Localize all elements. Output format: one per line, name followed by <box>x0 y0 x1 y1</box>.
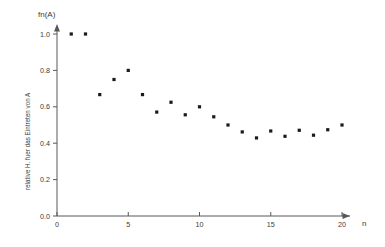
data-point <box>226 123 229 126</box>
x-tick-label: 0 <box>55 220 59 229</box>
scatter-plot: 0.00.20.40.60.81.0 05101520 fn(A) n rela… <box>0 0 385 247</box>
data-point <box>283 135 286 138</box>
data-point <box>269 129 272 132</box>
data-point <box>312 134 315 137</box>
data-point <box>255 136 258 139</box>
data-point-group <box>70 32 344 139</box>
data-point <box>84 32 87 35</box>
data-point <box>241 130 244 133</box>
x-tick-label: 5 <box>126 220 130 229</box>
y-tick-label: 0.2 <box>40 175 50 184</box>
y-tick-label: 0.8 <box>40 66 50 75</box>
y-axis-description-label: relative H. fuer das Eintreten von A <box>24 92 31 190</box>
x-axis-title: n <box>362 219 366 228</box>
y-tick-label: 0.6 <box>40 102 50 111</box>
x-axis-ticks: 05101520 <box>55 212 346 229</box>
data-point <box>298 129 301 132</box>
data-point <box>169 101 172 104</box>
y-axis-ticks: 0.00.20.40.60.81.0 <box>40 30 57 221</box>
data-point <box>198 105 201 108</box>
data-point <box>340 123 343 126</box>
x-tick-label: 20 <box>338 220 346 229</box>
data-point <box>155 110 158 113</box>
x-tick-label: 15 <box>267 220 275 229</box>
x-tick-label: 10 <box>196 220 204 229</box>
data-point <box>70 32 73 35</box>
data-point <box>326 128 329 131</box>
data-point <box>141 93 144 96</box>
data-point <box>212 115 215 118</box>
y-axis-arrowhead <box>54 24 60 32</box>
y-tick-label: 1.0 <box>40 30 50 39</box>
y-tick-label: 0.0 <box>40 212 50 221</box>
data-point <box>112 78 115 81</box>
data-point <box>184 113 187 116</box>
x-axis-arrowhead <box>343 213 351 219</box>
data-point <box>127 69 130 72</box>
y-axis-title: fn(A) <box>38 10 56 19</box>
chart-page: 0.00.20.40.60.81.0 05101520 fn(A) n rela… <box>0 0 385 247</box>
y-tick-label: 0.4 <box>40 139 50 148</box>
data-point <box>98 93 101 96</box>
